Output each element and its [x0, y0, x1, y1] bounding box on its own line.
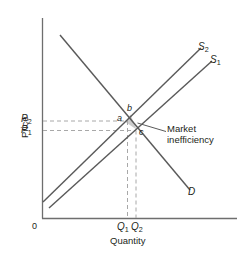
origin-label: 0 — [32, 221, 37, 231]
quantity-2-symbol: Q — [131, 221, 139, 232]
quantity-1-subscript: 1 — [125, 225, 129, 234]
quantity-2-subscript: 2 — [139, 225, 143, 234]
point-a-label: a — [117, 113, 122, 123]
supply-2-subscript: 2 — [205, 45, 209, 54]
supply-curve-s1-label: S1 — [210, 54, 221, 67]
supply-curve-s2-label: S2 — [198, 41, 209, 54]
supply-1-subscript: 1 — [217, 58, 221, 67]
point-b-label: b — [127, 103, 132, 113]
supply-2-symbol: S — [198, 41, 205, 52]
quantity-2-label: Q2 — [131, 221, 143, 234]
supply-1-symbol: S — [210, 54, 217, 65]
market-inefficiency-annotation: Market inefficiency — [167, 124, 214, 145]
price-1-label: P1 — [21, 124, 32, 137]
price-2-symbol: P — [21, 113, 28, 124]
point-c-label: c — [139, 127, 144, 137]
chart-figure: Price Quantity 0 P2 P1 Q1 Q2 S2 S1 D a b… — [0, 0, 244, 260]
x-axis-title: Quantity — [110, 236, 145, 247]
market-inefficiency-line-2: inefficiency — [167, 135, 214, 146]
price-1-symbol: P — [21, 124, 28, 135]
quantity-1-label: Q1 — [117, 221, 129, 234]
demand-curve-label: D — [188, 186, 195, 197]
price-1-subscript: 1 — [28, 128, 32, 137]
quantity-1-symbol: Q — [117, 221, 125, 232]
